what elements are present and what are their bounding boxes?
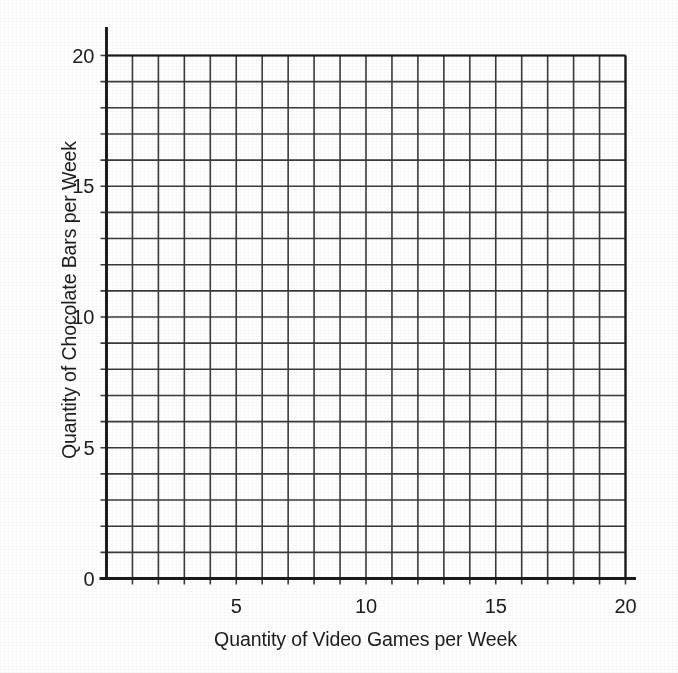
graph-figure: 05101520 5101520 Quantity of Chocolate B… bbox=[0, 0, 678, 673]
gridlines bbox=[101, 56, 626, 585]
plot-area bbox=[0, 0, 678, 673]
y-axis-title: Quantity of Chocolate Bars per Week bbox=[56, 20, 82, 580]
x-axis-title: Quantity of Video Games per Week bbox=[106, 626, 625, 652]
axis-lines bbox=[100, 27, 637, 579]
